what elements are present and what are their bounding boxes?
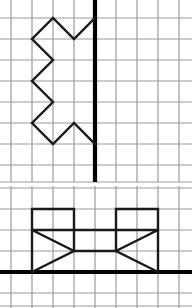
bottom-panel-canvas <box>0 186 192 308</box>
top-grid-panel <box>0 0 192 184</box>
top-panel-canvas <box>0 0 192 184</box>
bottom-grid-panel <box>0 186 192 308</box>
bottom-panel-gridlines <box>0 186 192 308</box>
diagram-stage <box>0 0 192 308</box>
